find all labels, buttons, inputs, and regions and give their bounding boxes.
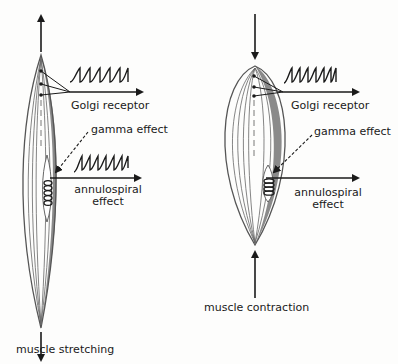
golgi-spike-train-icon bbox=[284, 68, 336, 83]
golgi-spike-train-icon bbox=[70, 68, 128, 82]
left-panel-title: muscle stretching bbox=[16, 344, 114, 356]
left-annulospiral-label: annulospiral effect bbox=[72, 184, 144, 208]
right-golgi-label: Golgi receptor bbox=[291, 100, 369, 112]
left-golgi-label: Golgi receptor bbox=[71, 100, 149, 112]
right-annulospiral-label-line2: effect bbox=[292, 199, 364, 211]
muscle-receptor-diagram: Golgi receptor gamma effect annulospiral… bbox=[0, 0, 398, 364]
gamma-arrow-icon bbox=[56, 132, 88, 172]
diagram-graphics bbox=[0, 0, 398, 364]
left-annulospiral-label-line2: effect bbox=[72, 196, 144, 208]
contracted-muscle bbox=[225, 14, 358, 298]
annulospiral-spike-train-icon bbox=[74, 156, 128, 172]
right-annulospiral-label: annulospiral effect bbox=[292, 187, 364, 211]
right-panel-title: muscle contraction bbox=[204, 302, 309, 314]
right-gamma-label: gamma effect bbox=[314, 126, 391, 138]
left-gamma-label: gamma effect bbox=[91, 124, 168, 136]
